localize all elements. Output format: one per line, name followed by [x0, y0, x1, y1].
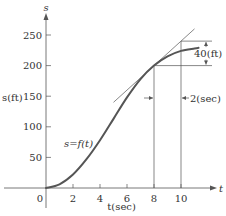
y-tick-label: 250: [23, 30, 42, 41]
y-tick-label: 200: [23, 60, 42, 71]
rise-label: 40(ft): [194, 48, 222, 59]
y-axis-name: s: [43, 2, 48, 13]
x-tick-label: 8: [151, 193, 157, 204]
y-tick-label: 50: [29, 152, 42, 163]
run-label: 2(sec): [190, 93, 221, 104]
y-axis-arrow-icon: [44, 13, 49, 20]
x-axis-name: t: [219, 183, 224, 194]
x-tick-label: 4: [97, 193, 103, 204]
y-tick-label: 100: [23, 121, 42, 132]
x-axis-arrow-icon: [210, 186, 217, 191]
x-tick-label: 10: [175, 193, 188, 204]
axes: [4, 13, 217, 208]
curve-s-f-t: [46, 48, 199, 188]
y-tick-label: 150: [23, 91, 42, 102]
curve-path: [46, 48, 199, 188]
arrow-up-icon: [204, 42, 208, 46]
ticks: 246810501001502002500: [23, 30, 187, 205]
y-axis-label: s(ft): [2, 92, 23, 103]
curve-label: s=f(t): [64, 138, 93, 149]
arrow-down-icon: [204, 61, 208, 65]
x-tick-label: 2: [70, 193, 76, 204]
arrow-right-icon: [149, 96, 153, 100]
arrow-left-icon: [182, 96, 186, 100]
guide-lines: [144, 41, 212, 188]
origin-label: 0: [37, 193, 43, 204]
chart-canvas: 246810501001502002500 sts(ft)t(sec)s=f(t…: [0, 0, 226, 216]
x-axis-label: t(sec): [107, 201, 136, 212]
